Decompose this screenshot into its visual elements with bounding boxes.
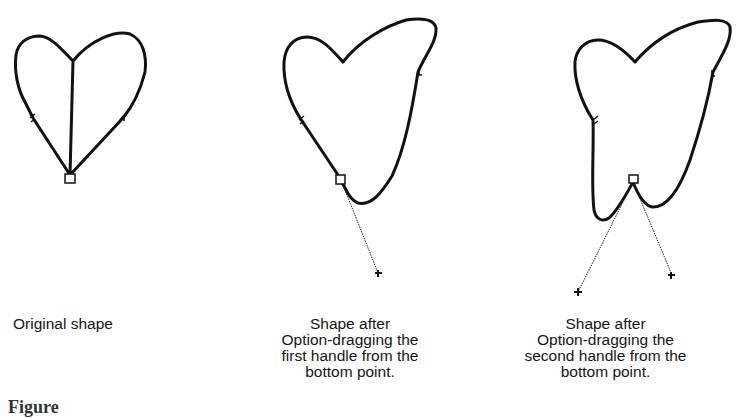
heart-original <box>15 33 145 175</box>
handle-end-cross-icon <box>375 270 382 277</box>
handle-end-cross-icon <box>574 288 582 296</box>
handle-line-right <box>633 182 672 275</box>
handle-line-left <box>578 182 633 292</box>
handle-line-first <box>341 180 378 273</box>
caption-first-handle: Shape after Option-dragging the first ha… <box>265 316 435 380</box>
handle-end-cross-icon <box>668 272 675 279</box>
heart-second-handle <box>575 20 730 220</box>
heart-first-handle <box>284 19 436 203</box>
caption-original: Original shape <box>13 316 113 332</box>
anchor-point-bottom-original <box>65 174 75 183</box>
figure-caption: Figure <box>8 397 59 418</box>
anchor-point-bottom-first <box>336 175 345 184</box>
caption-second-handle: Shape after Option-dragging the second h… <box>503 316 708 380</box>
anchor-point-bottom-second <box>629 175 638 183</box>
